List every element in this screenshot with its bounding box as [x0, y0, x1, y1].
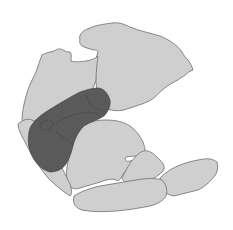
landmass-east-spur	[160, 159, 218, 196]
paleogeographic-map	[0, 0, 233, 230]
map-container	[0, 0, 233, 230]
